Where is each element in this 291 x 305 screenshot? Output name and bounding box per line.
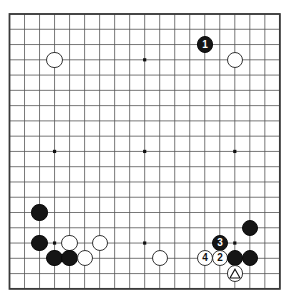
- move-number-label: 4: [202, 253, 207, 263]
- white-stone-r3c3[interactable]: [46, 52, 62, 68]
- star-point: [233, 150, 236, 153]
- black-stone-r13c2[interactable]: [31, 204, 47, 220]
- move-3-black[interactable]: 3: [212, 235, 228, 251]
- white-stone-r3c15[interactable]: [227, 52, 243, 68]
- black-stone-r14c16[interactable]: [242, 220, 258, 236]
- star-point: [143, 150, 146, 153]
- black-stone-r16c4[interactable]: [61, 250, 77, 266]
- white-stone-r15c6[interactable]: [92, 235, 108, 251]
- black-stone-r15c2[interactable]: [31, 235, 47, 251]
- black-stone-r16c3[interactable]: [46, 250, 62, 266]
- star-point: [53, 241, 56, 244]
- star-point: [143, 58, 146, 61]
- white-stone-r15c4[interactable]: [61, 235, 77, 251]
- move-number-label: 1: [202, 40, 207, 50]
- move-number-label: 2: [217, 253, 222, 263]
- white-stone-marked-triangle[interactable]: [227, 265, 243, 281]
- move-1-black[interactable]: 1: [197, 36, 213, 52]
- go-diagram: 1342: [0, 0, 291, 305]
- move-number-label: 3: [217, 238, 222, 248]
- star-point: [53, 150, 56, 153]
- white-stone-r16c5[interactable]: [77, 250, 93, 266]
- star-point: [143, 241, 146, 244]
- star-point: [233, 241, 236, 244]
